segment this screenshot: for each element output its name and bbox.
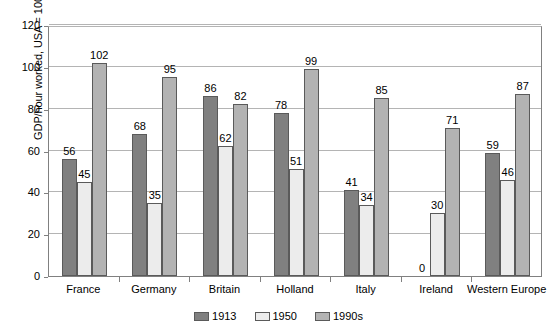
legend-swatch xyxy=(194,312,209,321)
y-tick-label: 20 xyxy=(6,228,40,240)
y-tick-label: 80 xyxy=(6,103,40,115)
legend-label: 1950 xyxy=(273,310,297,322)
bar-value-label: 78 xyxy=(266,99,297,111)
bar xyxy=(515,94,530,276)
bar xyxy=(233,104,248,276)
bar-value-label: 56 xyxy=(54,145,85,157)
y-tick-mark xyxy=(44,110,48,111)
bar xyxy=(359,205,374,276)
x-tick-mark xyxy=(330,277,331,282)
gridline xyxy=(49,24,541,25)
y-tick-label: 120 xyxy=(6,19,40,31)
bar-value-label: 85 xyxy=(366,84,397,96)
y-tick-mark xyxy=(44,152,48,153)
bar xyxy=(344,190,359,276)
bar-group: 413485 xyxy=(344,27,389,276)
bar-value-label: 82 xyxy=(225,90,256,102)
y-tick-mark xyxy=(44,193,48,194)
y-tick-mark xyxy=(44,235,48,236)
bar-value-label: 71 xyxy=(437,114,468,126)
bar-group: 683595 xyxy=(132,27,177,276)
bar-group: 594687 xyxy=(485,27,530,276)
x-tick-mark xyxy=(260,277,261,282)
legend-label: 1913 xyxy=(212,310,236,322)
bar xyxy=(162,77,177,276)
bar xyxy=(500,180,515,276)
legend-item[interactable]: 1990s xyxy=(315,310,363,322)
legend-item[interactable]: 1950 xyxy=(255,310,297,322)
bar xyxy=(218,146,233,276)
bar xyxy=(304,69,319,276)
bar xyxy=(274,113,289,276)
bar xyxy=(147,203,162,276)
bar-value-label: 95 xyxy=(154,63,185,75)
bar-value-label: 68 xyxy=(124,120,155,132)
bar xyxy=(92,63,107,276)
legend-swatch xyxy=(315,312,330,321)
bar xyxy=(430,213,445,276)
y-tick-mark xyxy=(44,26,48,27)
bar-value-label: 86 xyxy=(195,82,226,94)
chart-legend: 191319501990s xyxy=(0,310,557,322)
bar-group: 866282 xyxy=(203,27,248,276)
y-tick-label: 60 xyxy=(6,145,40,157)
x-tick-mark xyxy=(401,277,402,282)
bar-group: 785199 xyxy=(274,27,319,276)
legend-label: 1990s xyxy=(333,310,363,322)
bar-group: 03071 xyxy=(415,27,460,276)
x-tick-mark xyxy=(119,277,120,282)
y-tick-label: 100 xyxy=(6,61,40,73)
x-tick-mark xyxy=(471,277,472,282)
bar-value-label: 41 xyxy=(336,176,367,188)
bar-value-label: 102 xyxy=(84,49,115,61)
y-tick-mark xyxy=(44,68,48,69)
bar xyxy=(203,96,218,276)
bar xyxy=(77,182,92,276)
bar-value-label: 99 xyxy=(296,55,327,67)
x-category-label: Western Europe xyxy=(456,283,557,295)
plot-area: 5645102683595866282785199413485030715946… xyxy=(48,26,542,277)
bar xyxy=(289,169,304,276)
x-tick-mark xyxy=(189,277,190,282)
y-tick-label: 40 xyxy=(6,186,40,198)
y-tick-label: 0 xyxy=(6,270,40,282)
legend-item[interactable]: 1913 xyxy=(194,310,236,322)
bar xyxy=(132,134,147,276)
bar xyxy=(374,98,389,276)
bar-group: 5645102 xyxy=(62,27,107,276)
bar-chart: GDP/hour worked, USA = 100 5645102683595… xyxy=(0,0,557,336)
legend-swatch xyxy=(255,312,270,321)
bar-value-label: 59 xyxy=(477,139,508,151)
bar-value-label: 87 xyxy=(507,80,538,92)
y-tick-mark xyxy=(44,277,48,278)
bar xyxy=(445,128,460,277)
